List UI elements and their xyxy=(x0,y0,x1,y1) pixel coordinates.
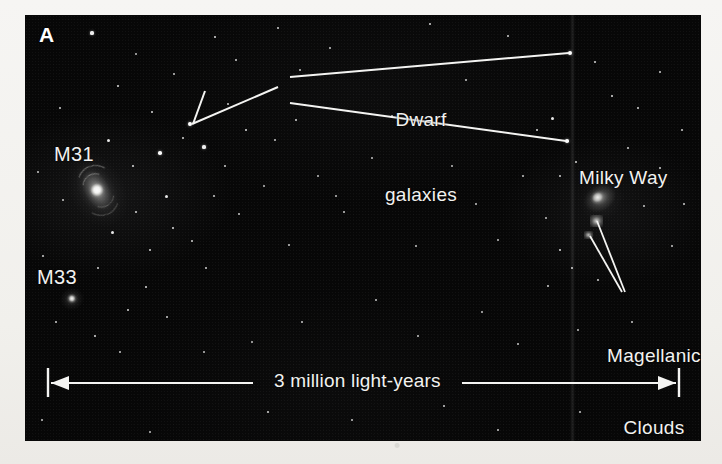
star-point xyxy=(551,117,554,120)
star-point xyxy=(267,411,270,414)
star-point xyxy=(397,199,399,201)
label-magellanic-line1: Magellanic xyxy=(579,344,701,368)
star-point xyxy=(351,419,353,421)
scale-bar-label: 3 million light-years xyxy=(274,370,441,392)
label-dwarf-line2: galaxies xyxy=(359,182,483,207)
star-point xyxy=(522,175,524,177)
star-point xyxy=(571,267,574,270)
star-point xyxy=(37,171,39,173)
star-point xyxy=(683,203,685,205)
label-magellanic-line2: Clouds xyxy=(579,416,701,440)
figure-root: A M31 M33 Milky Way Dwarf galaxies Magel… xyxy=(0,0,722,464)
star-point xyxy=(90,31,93,34)
star-point xyxy=(451,165,453,167)
star-point xyxy=(507,35,509,37)
label-magellanic-clouds: Magellanic Clouds xyxy=(579,296,701,441)
leader-dwarf-lower-right xyxy=(290,103,566,141)
star-point xyxy=(611,95,614,98)
star-point xyxy=(568,51,572,55)
label-dwarf-line1: Dwarf xyxy=(359,107,483,132)
star-point xyxy=(631,321,633,323)
star-point xyxy=(475,203,477,205)
star-point xyxy=(659,167,661,169)
leader-dwarf-upper-right xyxy=(290,53,569,77)
star-point xyxy=(132,165,135,168)
star-point xyxy=(465,79,467,81)
star-point xyxy=(547,285,549,287)
star-point xyxy=(166,316,168,318)
star-point xyxy=(227,103,229,105)
star-point xyxy=(417,335,419,337)
star-point xyxy=(335,195,337,197)
star-point xyxy=(497,429,499,431)
star-point xyxy=(559,175,561,177)
star-point xyxy=(317,175,319,177)
star-point xyxy=(637,107,640,110)
star-point xyxy=(107,139,110,142)
leader-dwarf-left-long xyxy=(192,87,278,124)
star-point xyxy=(343,211,345,213)
star-point xyxy=(415,245,417,247)
star-point xyxy=(94,335,97,338)
star-point xyxy=(135,53,137,55)
star-point xyxy=(55,321,57,323)
star-point xyxy=(151,111,154,114)
star-point xyxy=(191,240,193,242)
star-point xyxy=(238,213,240,215)
star-point xyxy=(443,405,445,407)
star-point xyxy=(659,71,661,73)
star-point xyxy=(97,267,99,269)
star-point xyxy=(375,299,377,301)
star-point xyxy=(165,195,168,198)
star-point xyxy=(371,157,373,159)
galaxy-m33 xyxy=(56,284,87,314)
star-point xyxy=(536,129,539,132)
star-point xyxy=(145,286,148,289)
star-point xyxy=(295,119,298,122)
star-point xyxy=(597,279,599,281)
label-m33: M33 xyxy=(37,266,77,289)
star-point xyxy=(671,245,673,247)
star-point xyxy=(245,129,248,132)
star-point xyxy=(565,139,569,143)
leader-magellanic-b xyxy=(590,236,622,292)
halftone-texture xyxy=(25,15,701,441)
star-point xyxy=(681,129,683,131)
label-milky-way: Milky Way xyxy=(579,167,668,189)
leader-lines xyxy=(25,15,701,441)
star-point xyxy=(627,147,629,149)
star-point xyxy=(42,255,44,257)
star-point xyxy=(481,311,483,313)
star-point xyxy=(205,267,207,269)
star-point xyxy=(203,351,205,353)
label-m31: M31 xyxy=(54,143,94,166)
star-point xyxy=(214,36,217,39)
star-point xyxy=(545,217,547,219)
star-point xyxy=(117,85,120,88)
star-point xyxy=(577,329,579,331)
sky-panel: A M31 M33 Milky Way Dwarf galaxies Magel… xyxy=(25,15,701,441)
star-point xyxy=(329,47,331,49)
star-point xyxy=(263,185,265,187)
star-point xyxy=(149,249,152,252)
sky-nebulosity xyxy=(25,15,701,441)
star-point xyxy=(497,239,499,241)
star-point xyxy=(119,351,121,353)
star-point xyxy=(517,343,519,345)
star-point xyxy=(299,69,301,71)
star-point xyxy=(594,61,597,64)
galaxy-milky-way xyxy=(570,167,630,228)
star-point xyxy=(182,137,185,140)
star-point xyxy=(301,321,303,323)
scan-seam-line xyxy=(570,15,575,441)
star-point xyxy=(213,195,215,197)
star-point xyxy=(188,122,192,126)
star-point xyxy=(429,23,432,26)
star-point xyxy=(111,231,114,234)
scale-bar xyxy=(25,15,701,441)
star-point xyxy=(41,419,43,421)
leader-magellanic-a xyxy=(597,221,625,292)
star-point xyxy=(391,115,393,117)
star-point xyxy=(559,249,562,252)
scale-arrow-left xyxy=(51,376,69,390)
